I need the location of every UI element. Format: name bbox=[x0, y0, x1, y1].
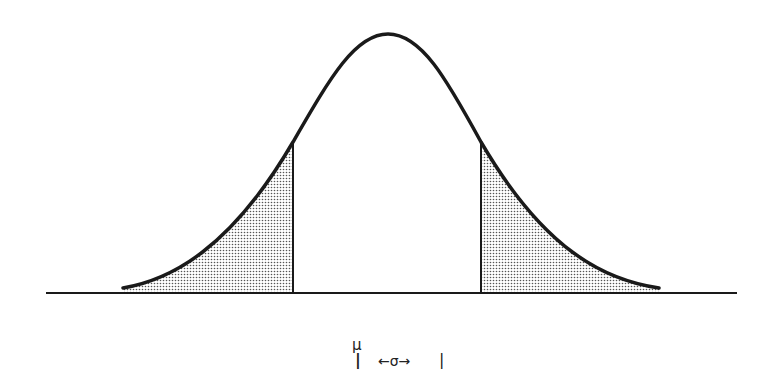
mean-tick-mark: | bbox=[355, 352, 361, 368]
right-tail-shaded-region bbox=[481, 142, 659, 293]
sigma-tick-mark: | bbox=[439, 352, 444, 368]
bell-curve bbox=[123, 34, 659, 288]
left-tail-shaded-region bbox=[123, 142, 293, 293]
normal-distribution-diagram bbox=[0, 0, 775, 379]
sigma-span-label: ←σ→ bbox=[378, 354, 410, 368]
